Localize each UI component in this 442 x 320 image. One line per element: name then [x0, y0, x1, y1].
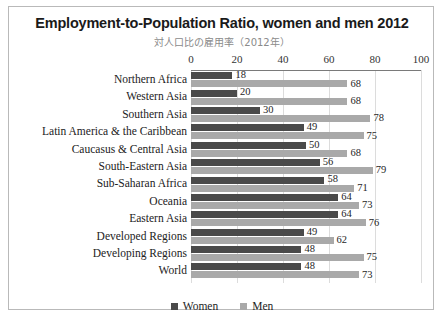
bar-women	[191, 90, 237, 97]
legend-item: Men	[240, 300, 273, 312]
bar-value-label: 30	[263, 105, 274, 115]
bar-men	[191, 115, 370, 122]
bar-men	[191, 167, 373, 174]
bar-men	[191, 132, 364, 139]
bar-row: Developed Regions4962	[9, 228, 435, 245]
bar-men	[191, 185, 354, 192]
category-label: Developed Regions	[0, 229, 187, 244]
x-tick-label: 60	[324, 53, 335, 65]
bar-rows: Northern Africa1868Western Asia2068South…	[9, 71, 435, 280]
bar-men	[191, 80, 347, 87]
bar-men	[191, 219, 366, 226]
category-label: Eastern Asia	[0, 211, 187, 226]
legend-label: Men	[252, 300, 273, 312]
bar-row: World4873	[9, 262, 435, 279]
legend-item: Women	[171, 300, 218, 312]
category-label: Western Asia	[0, 89, 187, 104]
bar-value-label: 49	[307, 122, 318, 132]
plot-area: 020406080100 Northern Africa1868Western …	[9, 53, 435, 293]
x-tick-label: 20	[232, 53, 243, 65]
chart-title: Employment-to-Population Ratio, women an…	[9, 15, 435, 31]
bar-value-label: 78	[373, 113, 384, 123]
bar-women	[191, 263, 301, 270]
bar-row: Sub-Saharan Africa5871	[9, 175, 435, 192]
bar-value-label: 18	[235, 70, 246, 80]
bar-value-label: 79	[376, 165, 387, 175]
bar-women	[191, 194, 338, 201]
bar-row: South-Eastern Asia5679	[9, 158, 435, 175]
bar-value-label: 49	[307, 227, 318, 237]
bar-row: Latin America & the Caribbean4975	[9, 123, 435, 140]
x-tick-label: 80	[370, 53, 381, 65]
bar-row: Eastern Asia6476	[9, 210, 435, 227]
category-label: Latin America & the Caribbean	[0, 124, 187, 139]
category-label: Southern Asia	[0, 107, 187, 122]
bar-women	[191, 72, 232, 79]
bar-women	[191, 229, 304, 236]
legend-swatch	[240, 303, 247, 310]
chart-legend: WomenMen	[9, 296, 435, 314]
bar-row: Caucasus & Central Asia5068	[9, 141, 435, 158]
bar-value-label: 58	[327, 174, 338, 184]
chart-subtitle: 対人口比の雇用率（2012年）	[9, 34, 435, 49]
bar-value-label: 73	[362, 270, 373, 280]
bar-row: Northern Africa1868	[9, 71, 435, 88]
bar-value-label: 62	[337, 235, 348, 245]
category-label: Caucasus & Central Asia	[0, 142, 187, 157]
chart-frame: Employment-to-Population Ratio, women an…	[8, 6, 434, 310]
bar-women	[191, 177, 324, 184]
bar-value-label: 64	[341, 209, 352, 219]
category-label: Oceania	[0, 194, 187, 209]
bar-women	[191, 211, 338, 218]
bar-value-label: 68	[350, 96, 361, 106]
bar-women	[191, 246, 301, 253]
x-tick-label: 100	[413, 53, 430, 65]
bar-row: Oceania6473	[9, 193, 435, 210]
category-label: Sub-Saharan Africa	[0, 176, 187, 191]
bar-men	[191, 202, 359, 209]
bar-value-label: 50	[309, 140, 320, 150]
category-label: World	[0, 263, 187, 278]
category-label: South-Eastern Asia	[0, 159, 187, 174]
category-label: Northern Africa	[0, 72, 187, 87]
bar-value-label: 48	[304, 244, 315, 254]
bar-women	[191, 159, 320, 166]
bar-row: Developing Regions4875	[9, 245, 435, 262]
x-tick-label: 0	[188, 53, 194, 65]
bar-value-label: 71	[357, 183, 368, 193]
bar-women	[191, 124, 304, 131]
bar-women	[191, 107, 260, 114]
bar-value-label: 20	[240, 87, 251, 97]
category-label: Developing Regions	[0, 246, 187, 261]
bar-row: Southern Asia3078	[9, 106, 435, 123]
bar-men	[191, 271, 359, 278]
bar-men	[191, 254, 364, 261]
legend-label: Women	[183, 300, 218, 312]
bar-value-label: 76	[369, 218, 380, 228]
bar-value-label: 75	[367, 131, 378, 141]
bar-women	[191, 142, 306, 149]
bar-value-label: 48	[304, 261, 315, 271]
bar-value-label: 75	[367, 252, 378, 262]
bar-value-label: 73	[362, 200, 373, 210]
bar-row: Western Asia2068	[9, 88, 435, 105]
bar-value-label: 68	[350, 148, 361, 158]
legend-swatch	[171, 303, 178, 310]
bar-value-label: 64	[341, 192, 352, 202]
bar-value-label: 56	[323, 157, 334, 167]
bar-value-label: 68	[350, 79, 361, 89]
x-tick-label: 40	[278, 53, 289, 65]
